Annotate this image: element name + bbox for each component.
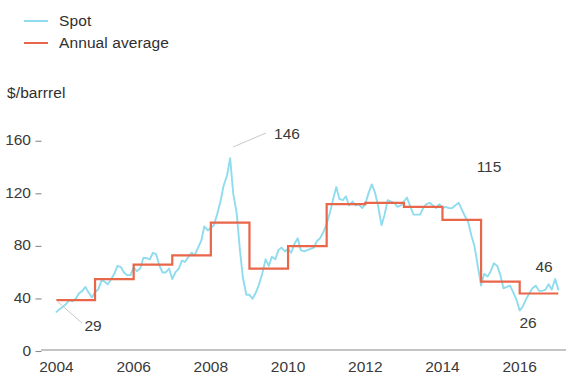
series-line-annual-average: [56, 203, 558, 300]
x-axis-tick-label: 2016: [502, 358, 536, 375]
series-line-spot: [56, 158, 558, 312]
y-axis-tick-label: 0: [22, 342, 31, 359]
annotation-value-label: 26: [519, 314, 536, 331]
x-axis-tick-label: 2010: [271, 358, 306, 375]
x-axis-tick-label: 2012: [348, 358, 382, 375]
annotation-value-label: 29: [84, 317, 101, 334]
oil-price-chart-figure: Spot Annual average $/barrrel 0408012016…: [0, 0, 573, 381]
y-axis-tick-label: 80: [14, 236, 32, 253]
chart-plot-area: 0408012016020042006200820102012201420162…: [0, 0, 573, 381]
x-axis-tick-label: 2006: [116, 358, 150, 375]
x-axis-tick-label: 2014: [425, 358, 460, 375]
annotation-value-label: 146: [274, 125, 300, 142]
y-axis-tick-label: 120: [5, 184, 31, 201]
x-axis-tick-label: 2004: [39, 358, 74, 375]
annotation-leader-line: [58, 302, 82, 323]
annotation-value-label: 115: [477, 158, 502, 175]
y-axis-tick-label: 40: [14, 289, 32, 306]
y-axis-tick-label: 160: [5, 131, 31, 148]
x-axis-tick-label: 2008: [194, 358, 228, 375]
annotation-leader-line: [233, 133, 266, 147]
annotation-value-label: 46: [535, 258, 552, 275]
